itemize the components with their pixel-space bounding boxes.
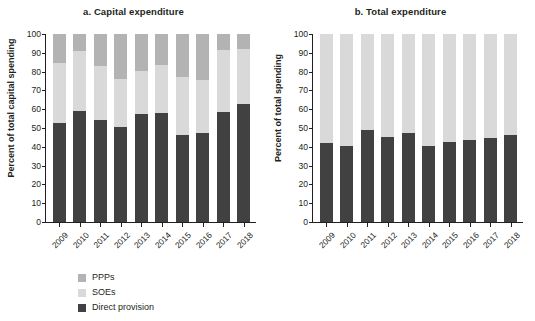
y-axis-tick-mark	[309, 166, 313, 167]
y-axis-tick-label: 70	[298, 85, 308, 95]
legend-item-direct[interactable]: Direct provision	[78, 302, 154, 313]
legend-swatch-direct	[78, 304, 86, 312]
y-axis-tick-label: 60	[31, 104, 41, 114]
bar-segment	[237, 49, 250, 104]
bar-stack	[73, 34, 86, 222]
y-axis-tick-label: 70	[31, 85, 41, 95]
bar-segment	[340, 34, 353, 146]
x-axis-tick-mark	[100, 223, 101, 227]
bar-stack	[155, 34, 168, 222]
legend-item-ppps[interactable]: PPPs	[78, 272, 154, 283]
y-axis-tick-mark	[42, 72, 46, 73]
bar-stack	[361, 34, 374, 222]
y-axis-tick-mark	[309, 222, 313, 223]
bar-segment	[94, 66, 107, 121]
legend: PPPsSOEsDirect provision	[78, 272, 154, 317]
x-axis-tick-mark	[449, 223, 450, 227]
bar-segment	[155, 113, 168, 222]
bar-segment	[53, 63, 66, 123]
x-axis-tick-mark	[347, 223, 348, 227]
y-axis-tick-mark	[42, 34, 46, 35]
legend-item-soes[interactable]: SOEs	[78, 287, 154, 298]
x-axis-tick-mark	[511, 223, 512, 227]
legend-label-direct: Direct provision	[92, 302, 154, 313]
bar-stack	[114, 34, 127, 222]
bar-stack	[443, 34, 456, 222]
y-axis-tick-labels: 0102030405060708090100	[286, 0, 308, 222]
x-axis-tick-mark	[388, 223, 389, 227]
bar-segment	[176, 135, 189, 222]
x-axis-tick-mark	[490, 223, 491, 227]
x-axis-tick-mark	[162, 223, 163, 227]
y-axis-tick-label: 20	[298, 179, 308, 189]
x-axis-tick-mark	[326, 223, 327, 227]
bar-segment	[320, 143, 333, 222]
x-axis-line	[45, 222, 256, 223]
y-axis-tick-label: 100	[27, 29, 41, 39]
bar-stack	[504, 34, 517, 222]
y-axis-tick-mark	[309, 90, 313, 91]
y-axis-tick-mark	[42, 90, 46, 91]
bar-stack	[320, 34, 333, 222]
bar-segment	[176, 34, 189, 77]
y-axis-tick-label: 40	[298, 142, 308, 152]
y-axis-tick-mark	[42, 203, 46, 204]
bar-segment	[196, 80, 209, 133]
bar-stack	[217, 34, 230, 222]
x-axis-tick-mark	[182, 223, 183, 227]
bar-segment	[484, 138, 497, 222]
y-axis-tick-mark	[42, 109, 46, 110]
y-axis-tick-mark	[309, 34, 313, 35]
bar-segment	[463, 140, 476, 222]
bar-segment	[443, 34, 456, 142]
y-axis-tick-labels: 0102030405060708090100	[19, 0, 41, 222]
y-axis-tick-mark	[309, 128, 313, 129]
y-axis-tick-mark	[42, 53, 46, 54]
bar-segment	[155, 34, 168, 65]
bar-segment	[114, 127, 127, 222]
bar-segment	[155, 65, 168, 113]
bar-segment	[217, 112, 230, 222]
bar-stack	[135, 34, 148, 222]
y-axis-tick-mark	[42, 184, 46, 185]
bar-segment	[196, 34, 209, 80]
bar-segment	[484, 34, 497, 138]
y-axis-tick-label: 30	[31, 161, 41, 171]
y-axis-tick-label: 10	[298, 198, 308, 208]
bar-segment	[422, 146, 435, 222]
bar-stack	[196, 34, 209, 222]
bar-segment	[402, 34, 415, 133]
x-axis-tick-mark	[429, 223, 430, 227]
y-axis-tick-label: 0	[36, 217, 41, 227]
bar-segment	[361, 130, 374, 222]
y-axis-tick-mark	[309, 72, 313, 73]
bar-segment	[135, 71, 148, 114]
y-axis-tick-mark	[309, 184, 313, 185]
x-axis-tick-mark	[203, 223, 204, 227]
x-axis-tick-mark	[408, 223, 409, 227]
bar-segment	[361, 34, 374, 130]
x-axis-tick-mark	[59, 223, 60, 227]
bar-segment	[422, 34, 435, 146]
x-axis-tick-mark	[244, 223, 245, 227]
y-axis-tick-label: 50	[298, 123, 308, 133]
y-axis-tick-label: 80	[31, 67, 41, 77]
bar-stack	[237, 34, 250, 222]
y-axis-tick-mark	[42, 166, 46, 167]
bar-segment	[114, 79, 127, 127]
x-axis-tick-mark	[367, 223, 368, 227]
x-axis-tick-mark	[141, 223, 142, 227]
bar-segment	[217, 50, 230, 112]
y-axis-tick-label: 20	[31, 179, 41, 189]
figure-root: a. Capital expenditure Percent of total …	[0, 0, 535, 321]
bar-stack	[94, 34, 107, 222]
bar-stack	[484, 34, 497, 222]
x-axis-tick-mark	[121, 223, 122, 227]
y-axis-tick-mark	[309, 203, 313, 204]
bar-segment	[53, 123, 66, 222]
y-axis-tick-label: 60	[298, 104, 308, 114]
legend-label-soes: SOEs	[92, 287, 116, 298]
bar-stack	[463, 34, 476, 222]
chart-panel-capital-expenditure: a. Capital expenditure Percent of total …	[0, 0, 267, 321]
bar-stack	[402, 34, 415, 222]
